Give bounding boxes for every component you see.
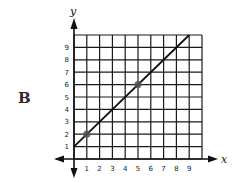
data-point (134, 81, 141, 88)
x-tick-label: 4 (123, 165, 128, 173)
y-tick-label: 6 (65, 81, 70, 89)
y-tick-label: 2 (65, 131, 69, 139)
coordinate-graph: 123456789123456789yx (0, 0, 235, 183)
x-tick-label: 6 (149, 165, 154, 173)
y-tick-label: 1 (65, 143, 69, 151)
data-point (83, 131, 90, 138)
y-tick-label: 7 (65, 69, 69, 77)
x-tick-label: 1 (85, 165, 89, 173)
x-tick-label: 3 (110, 165, 114, 173)
y-tick-label: 4 (65, 106, 70, 114)
y-tick-label: 5 (65, 94, 69, 102)
x-axis-label: x (221, 153, 228, 166)
y-tick-label: 8 (65, 56, 69, 64)
y-axis-arrow-up-icon (71, 18, 78, 29)
x-tick-label: 5 (136, 165, 140, 173)
x-tick-label: 9 (187, 165, 191, 173)
data-line (74, 35, 189, 147)
y-tick-label: 9 (65, 44, 69, 52)
y-tick-label: 3 (65, 118, 69, 126)
y-axis-arrow-down-icon (71, 168, 78, 178)
x-tick-label: 2 (97, 165, 101, 173)
x-tick-label: 8 (174, 165, 178, 173)
x-axis-arrow-left-icon (54, 156, 64, 163)
x-tick-label: 7 (161, 165, 165, 173)
y-axis-label: y (69, 5, 77, 18)
x-axis-arrow-right-icon (208, 156, 218, 163)
